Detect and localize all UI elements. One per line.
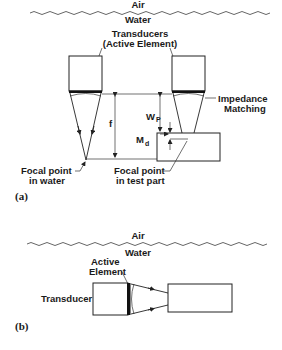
left-impedance-layer	[70, 94, 101, 97]
matching-label: Matching	[224, 103, 266, 114]
element-label-b: Element	[89, 266, 127, 277]
right-transducer-housing	[172, 56, 205, 91]
right-impedance-layer	[173, 94, 204, 97]
immersion-focusing-diagram: Air Water Transducers (Active Element)	[0, 0, 282, 350]
right-beam-edge-2	[194, 93, 204, 133]
left-transducer-housing	[69, 56, 102, 91]
right-active-element	[172, 91, 205, 94]
test-part-b	[168, 284, 232, 312]
left-active-element	[69, 91, 102, 94]
focal-water-leader	[75, 162, 85, 171]
water-label-b: Water	[125, 247, 151, 258]
active-element-label: (Active Element)	[103, 38, 177, 49]
transducer-housing-b	[93, 283, 128, 315]
figure-b: Air Water Active Element Transducer (b)	[15, 230, 267, 333]
test-part-a	[157, 133, 220, 161]
water-surface-wave-b	[27, 243, 267, 246]
md-label: M	[136, 134, 144, 145]
right-beam-edge-1	[173, 93, 182, 133]
md-subscript: d	[145, 140, 149, 147]
active-element-b	[127, 283, 131, 315]
panel-label-a: (a)	[15, 190, 28, 203]
air-label-b: Air	[131, 230, 145, 241]
figure-a: Air Water Transducers (Active Element)	[15, 0, 270, 203]
left-transducer	[69, 56, 102, 160]
impedance-layer-b	[132, 284, 135, 314]
wp-label: W	[146, 111, 155, 122]
f-label: f	[109, 118, 113, 129]
focal-point-water-label-2: in water	[29, 175, 65, 186]
water-label-a: Water	[125, 14, 151, 25]
beam-arrow	[78, 126, 80, 134]
air-label-a: Air	[131, 0, 145, 10]
focal-point-part-label-2: in test part	[116, 175, 165, 186]
panel-label-b: (b)	[15, 320, 29, 333]
transducer-label-b: Transducer	[41, 293, 93, 304]
wp-subscript: P	[156, 116, 161, 123]
